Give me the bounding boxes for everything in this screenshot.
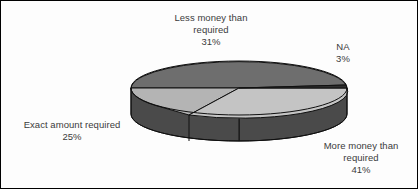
slice-label-more-money-line1: More money than [305,140,417,152]
pie-chart-figure: Less money than required 31% NA 3% Exact… [0,0,418,189]
pie-3d-body [131,61,348,141]
slice-label-less-money-percent: 31% [153,36,269,48]
slice-label-exact-amount-line1: Exact amount required [9,119,135,131]
slice-label-na-line1: NA [313,41,373,53]
slice-label-less-money-line1: Less money than [153,12,269,24]
pie-slice-less-money [131,62,346,88]
slice-label-less-money-line2: required [153,24,269,36]
slice-label-na: NA 3% [313,41,373,65]
slice-label-na-percent: 3% [313,53,373,65]
slice-label-more-money-line2: required [305,152,417,164]
slice-label-more-money-percent: 41% [305,164,417,176]
slice-label-more-money: More money than required 41% [305,140,417,176]
slice-label-exact-amount-percent: 25% [9,131,135,143]
slice-label-less-money: Less money than required 31% [153,12,269,48]
slice-label-exact-amount: Exact amount required 25% [9,119,135,143]
